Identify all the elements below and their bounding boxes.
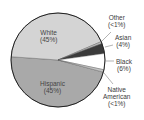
label-native-name1: Native — [103, 86, 130, 93]
label-black-pct: (6%) — [116, 65, 132, 72]
label-hispanic: Hispanic (45%) — [40, 80, 65, 94]
leader-asian — [105, 45, 113, 47]
label-native-american: Native American (<1%) — [103, 86, 130, 107]
label-black-name: Black — [116, 58, 132, 65]
label-hispanic-pct: (45%) — [40, 87, 65, 94]
label-asian: Asian (4%) — [115, 34, 131, 48]
label-black: Black (6%) — [116, 58, 132, 72]
label-other-pct: (<1%) — [108, 21, 126, 28]
label-white-name: White — [40, 29, 57, 36]
leader-native — [104, 73, 113, 84]
label-native-name2: American — [103, 93, 130, 100]
leader-other — [101, 32, 111, 42]
label-other-name: Other — [108, 14, 126, 21]
label-hispanic-name: Hispanic — [40, 80, 65, 87]
label-asian-pct: (4%) — [115, 41, 131, 48]
label-asian-name: Asian — [115, 34, 131, 41]
label-white-pct: (45%) — [40, 36, 57, 43]
label-native-pct: (<1%) — [103, 100, 130, 107]
label-other: Other (<1%) — [108, 14, 126, 28]
label-white: White (45%) — [40, 29, 57, 43]
